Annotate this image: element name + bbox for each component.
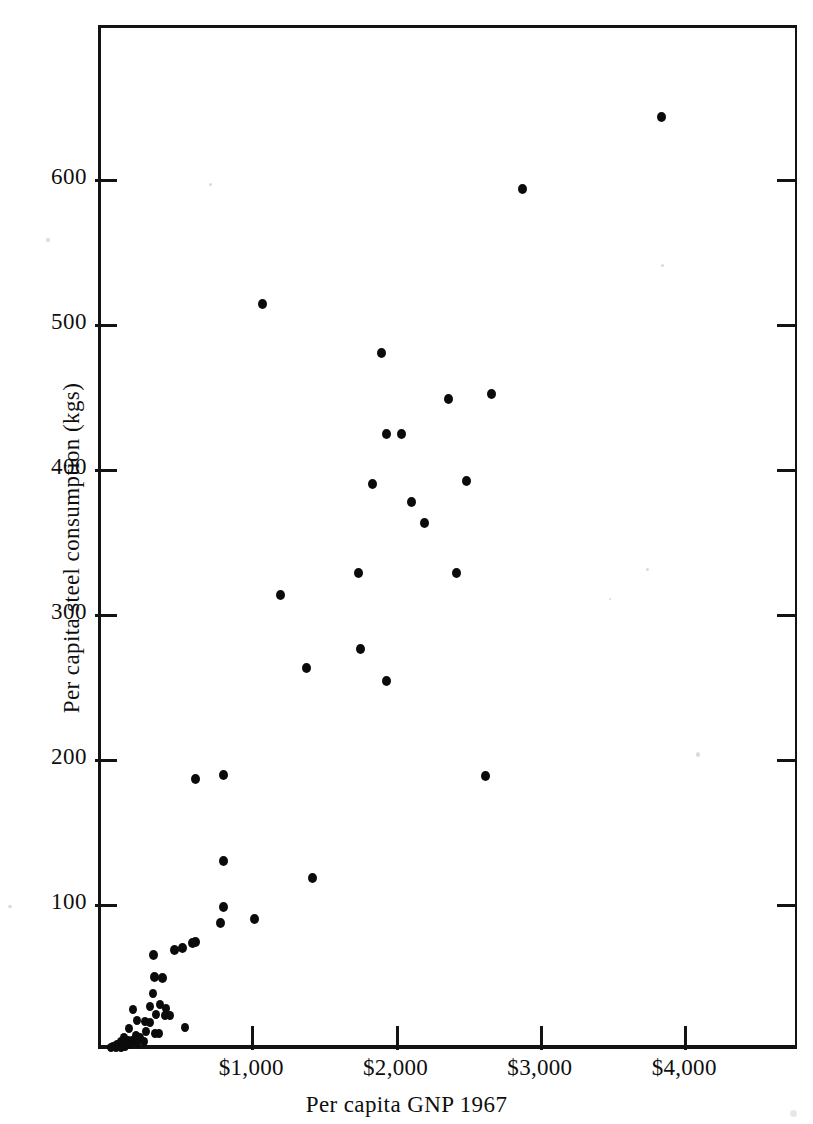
data-point bbox=[250, 914, 259, 924]
y-tick-mark-right bbox=[777, 324, 797, 327]
data-point bbox=[308, 873, 317, 883]
x-axis-title: Per capita GNP 1967 bbox=[0, 1092, 813, 1118]
data-point bbox=[276, 590, 285, 600]
data-point bbox=[397, 429, 406, 439]
y-tick-mark-right bbox=[777, 904, 797, 907]
data-point bbox=[302, 663, 311, 673]
y-tick-mark-right bbox=[777, 179, 797, 182]
scan-speckle bbox=[46, 238, 50, 242]
scatter-plot-figure: 100200300400500600 $1,000$2,000$3,000$4,… bbox=[0, 0, 813, 1124]
data-point bbox=[133, 1016, 141, 1025]
data-point bbox=[462, 476, 471, 486]
y-tick-mark bbox=[95, 469, 117, 472]
x-tick-label: $4,000 bbox=[624, 1056, 744, 1079]
y-tick-mark bbox=[95, 759, 117, 762]
data-point bbox=[158, 973, 167, 983]
x-tick-mark bbox=[684, 1026, 687, 1050]
data-point bbox=[178, 943, 187, 953]
x-tick-mark bbox=[251, 1026, 254, 1050]
y-tick-mark bbox=[95, 614, 117, 617]
y-tick-mark-right bbox=[777, 614, 797, 617]
y-tick-mark-right bbox=[777, 759, 797, 762]
x-tick-label: $2,000 bbox=[336, 1056, 456, 1079]
data-point bbox=[181, 1023, 189, 1032]
data-point bbox=[258, 299, 267, 309]
data-point bbox=[356, 644, 365, 654]
plot-area bbox=[98, 25, 797, 1049]
data-point bbox=[219, 856, 228, 866]
data-point bbox=[368, 479, 377, 489]
data-point bbox=[382, 429, 391, 439]
data-point bbox=[188, 938, 197, 948]
y-tick-mark bbox=[95, 904, 117, 907]
y-tick-label: 600 bbox=[7, 165, 87, 188]
x-tick-label: $1,000 bbox=[191, 1056, 311, 1079]
data-point bbox=[377, 348, 386, 358]
scan-speckle bbox=[8, 905, 12, 908]
data-point bbox=[481, 771, 490, 781]
x-tick-label: $3,000 bbox=[480, 1056, 600, 1079]
data-point bbox=[420, 518, 429, 528]
data-point bbox=[155, 1029, 163, 1038]
scan-speckle bbox=[790, 1110, 797, 1117]
data-point bbox=[140, 1037, 148, 1046]
data-point bbox=[657, 112, 666, 122]
y-axis-title: Per capita steel consumption (kgs) bbox=[59, 198, 85, 898]
x-tick-mark bbox=[540, 1026, 543, 1050]
data-point bbox=[152, 1010, 160, 1019]
y-tick-mark-right bbox=[777, 469, 797, 472]
data-point bbox=[117, 1043, 125, 1052]
data-point bbox=[191, 774, 200, 784]
data-point bbox=[487, 389, 496, 399]
x-tick-mark bbox=[396, 1026, 399, 1050]
y-tick-mark bbox=[95, 324, 117, 327]
data-point bbox=[125, 1024, 133, 1033]
y-tick-mark bbox=[95, 179, 117, 182]
